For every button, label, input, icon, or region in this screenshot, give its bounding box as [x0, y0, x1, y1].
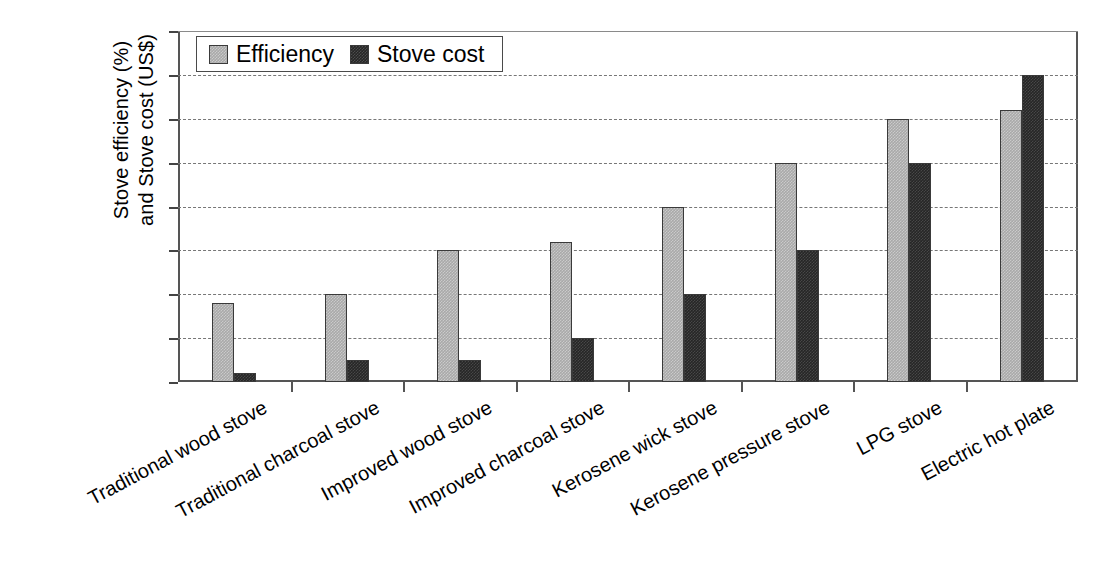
x-category-label-1: Traditional charcoal stove — [172, 396, 383, 522]
bar-stove-cost-4 — [684, 294, 706, 382]
legend-label-efficiency: Efficiency — [236, 43, 334, 66]
y-tick-20 — [169, 294, 178, 296]
bar-efficiency-2 — [437, 250, 459, 382]
y-tick-40 — [169, 207, 178, 209]
bar-efficiency-6 — [887, 119, 909, 382]
bar-efficiency-5 — [775, 163, 797, 382]
x-category-label-3: Improved charcoal stove — [405, 396, 608, 518]
bar-stove-cost-6 — [909, 163, 931, 382]
y-axis-title-line2: and Stove cost (US$) — [134, 34, 159, 226]
bar-chart: Stove efficiency (%) and Stove cost (US$… — [0, 0, 1119, 568]
chart-legend: Efficiency Stove cost — [196, 36, 503, 72]
bar-stove-cost-0 — [234, 373, 256, 382]
y-tick-80 — [169, 31, 178, 33]
bar-efficiency-4 — [662, 207, 684, 383]
y-tick-30 — [169, 250, 178, 252]
y-tick-60 — [169, 119, 178, 121]
bar-stove-cost-3 — [572, 338, 594, 382]
x-tick-4 — [628, 382, 630, 392]
y-tick-0 — [169, 382, 178, 384]
bar-stove-cost-1 — [347, 360, 369, 382]
x-category-label-6: LPG stove — [853, 396, 946, 459]
bar-efficiency-3 — [550, 242, 572, 382]
bar-efficiency-1 — [325, 294, 347, 382]
x-category-label-0: Traditional wood stove — [84, 396, 270, 509]
legend-item-efficiency: Efficiency — [209, 43, 340, 66]
x-tick-7 — [966, 382, 968, 392]
legend-swatch-efficiency-icon — [209, 45, 228, 64]
y-axis-title-line1: Stove efficiency (%) — [109, 41, 134, 219]
x-tick-2 — [403, 382, 405, 392]
y-tick-50 — [169, 163, 178, 165]
bars-layer — [178, 31, 1078, 382]
plot-area — [178, 31, 1078, 382]
bar-efficiency-0 — [212, 303, 234, 382]
bar-stove-cost-2 — [459, 360, 481, 382]
x-tick-3 — [516, 382, 518, 392]
x-tick-6 — [853, 382, 855, 392]
x-tick-5 — [741, 382, 743, 392]
legend-item-stove-cost: Stove cost — [350, 43, 490, 66]
y-tick-70 — [169, 75, 178, 77]
legend-swatch-stove-cost-icon — [350, 45, 369, 64]
x-tick-1 — [291, 382, 293, 392]
y-tick-10 — [169, 338, 178, 340]
legend-label-stove-cost: Stove cost — [377, 43, 484, 66]
bar-efficiency-7 — [1000, 110, 1022, 382]
bar-stove-cost-5 — [797, 250, 819, 382]
x-category-label-5: Kerosene pressure stove — [626, 396, 833, 520]
y-axis-title: Stove efficiency (%) and Stove cost (US$… — [104, 0, 164, 300]
bar-stove-cost-7 — [1022, 75, 1044, 382]
